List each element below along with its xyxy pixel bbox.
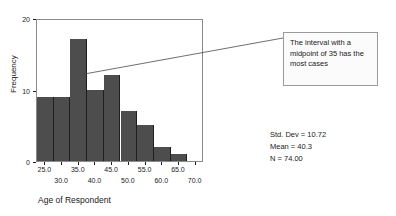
y-tick-label: 20: [0, 16, 30, 23]
histogram-screenshot: Frequency 01020 25.030.035.040.045.050.0…: [0, 0, 396, 216]
bars-layer: [37, 20, 202, 161]
y-tick-label: 10: [0, 87, 30, 94]
x-tick-mark: [195, 162, 196, 165]
histogram-bar: [87, 90, 104, 162]
x-tick-label: 55.0: [138, 166, 152, 173]
x-tick-mark: [94, 162, 95, 165]
histogram-bar: [154, 147, 171, 161]
histogram-bar: [70, 39, 87, 161]
x-axis-title: Age of Respondent: [38, 195, 111, 205]
statistics-block: Std. Dev = 10.72Mean = 40.3N = 74.00: [270, 129, 326, 165]
x-tick-label: 65.0: [171, 166, 185, 173]
callout-annotation: The interval with a midpoint of 35 has t…: [283, 32, 378, 86]
x-tick-label: 40.0: [88, 177, 102, 184]
x-tick-label: 50.0: [121, 177, 135, 184]
x-tick-mark: [161, 162, 162, 165]
y-tick-mark: [33, 162, 36, 163]
x-tick-mark: [78, 162, 79, 165]
histogram-bar: [104, 75, 121, 161]
histogram-bar: [171, 154, 188, 161]
statistic-line: Std. Dev = 10.72: [270, 129, 326, 141]
histogram-bar: [121, 111, 138, 161]
x-tick-mark: [61, 162, 62, 165]
x-tick-label: 45.0: [104, 166, 118, 173]
x-tick-label: 60.0: [154, 177, 168, 184]
x-tick-mark: [145, 162, 146, 165]
x-tick-label: 35.0: [71, 166, 85, 173]
y-tick-label: 0: [0, 159, 30, 166]
statistic-line: N = 74.00: [270, 153, 326, 165]
x-tick-mark: [178, 162, 179, 165]
statistic-line: Mean = 40.3: [270, 141, 326, 153]
plot-area: [36, 19, 203, 162]
x-tick-mark: [111, 162, 112, 165]
histogram-bar: [37, 97, 54, 161]
x-tick-mark: [128, 162, 129, 165]
x-tick-mark: [44, 162, 45, 165]
x-tick-label: 25.0: [38, 166, 52, 173]
histogram-bar: [54, 97, 71, 161]
x-tick-label: 30.0: [54, 177, 68, 184]
x-tick-label: 70.0: [188, 177, 202, 184]
histogram-bar: [137, 125, 154, 161]
